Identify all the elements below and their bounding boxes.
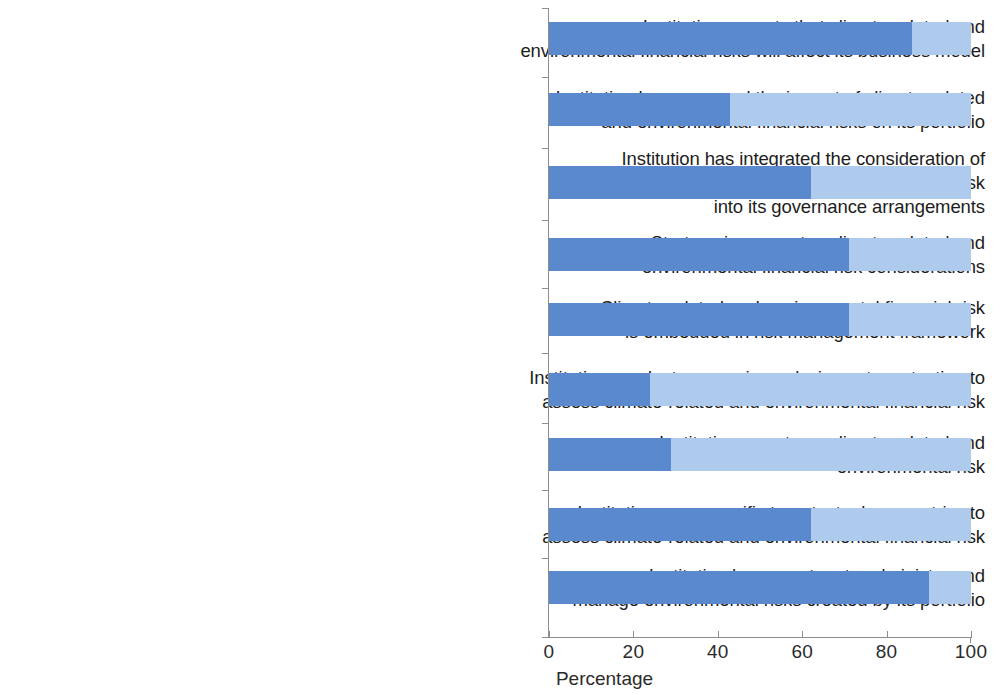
bar-row [549,508,971,541]
value-axis-tick [887,631,888,638]
bar-row [549,22,971,55]
value-axis-tick [633,631,634,638]
value-axis-tick-label: 60 [791,641,813,663]
value-axis-tick-label: 100 [955,641,987,663]
bar-segment-dark [549,166,811,199]
value-axis-tick [549,631,550,638]
bar-row [549,373,971,406]
value-axis-title: Percentage [0,668,994,690]
bar-segment-light [849,238,971,271]
value-axis-line [548,637,971,638]
plot-area [549,8,971,637]
bar-segment-light [671,438,971,471]
bar-segment-dark [549,238,849,271]
bar-segment-light [650,373,971,406]
value-axis-tick-label: 20 [623,641,645,663]
bar-segment-dark [549,508,811,541]
bar-segment-light [811,166,971,199]
bar-row [549,93,971,126]
bar-segment-light [912,22,971,55]
value-axis-tick [802,631,803,638]
bar-segment-light [811,508,971,541]
value-axis-tick-label: 0 [544,641,555,663]
bar-row [549,438,971,471]
category-axis-tick [542,288,549,289]
category-axis-tick [542,220,549,221]
category-axis-tick [542,148,549,149]
value-axis-tick-label: 40 [707,641,729,663]
bar-segment-light [929,571,971,604]
bar-segment-dark [549,22,912,55]
value-axis-tick-label: 80 [876,641,898,663]
bar-row [549,166,971,199]
bar-segment-light [730,93,971,126]
bar-segment-dark [549,571,929,604]
category-axis-tick [542,77,549,78]
stacked-bar-chart: Institution expects that climate-related… [0,0,994,694]
value-axis-title-text: Percentage [556,668,653,690]
category-axis-tick [542,558,549,559]
bar-segment-dark [549,438,671,471]
bar-row [549,303,971,336]
category-axis-tick [542,8,549,9]
category-axis-tick [542,353,549,354]
bar-row [549,571,971,604]
category-axis-tick [542,490,549,491]
bar-row [549,238,971,271]
bar-segment-dark [549,303,849,336]
bar-segment-dark [549,373,650,406]
bar-segment-light [849,303,971,336]
value-axis-tick [971,631,972,638]
category-axis-tick [542,423,549,424]
bar-segment-dark [549,93,730,126]
value-axis-tick [718,631,719,638]
